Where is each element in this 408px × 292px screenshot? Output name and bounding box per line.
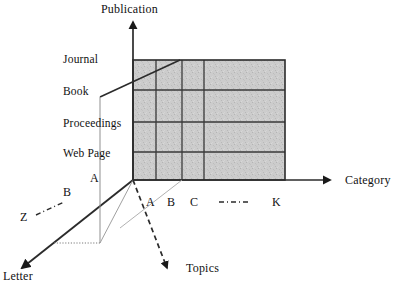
publication-tick-journal: Journal bbox=[63, 54, 98, 66]
letter-tick-z: Z bbox=[20, 211, 28, 223]
topics-axis-label: Topics bbox=[186, 262, 219, 274]
category-tick-b: B bbox=[167, 196, 175, 208]
diagram-canvas bbox=[0, 0, 408, 292]
publication-tick-book: Book bbox=[63, 86, 89, 98]
publication-tick-proceedings: Proceedings bbox=[63, 118, 121, 130]
category-tick-c: C bbox=[190, 196, 198, 208]
category-axis-label: Category bbox=[345, 174, 391, 186]
topics-axis-line bbox=[133, 180, 167, 268]
letter-axis-label: Letter bbox=[3, 270, 33, 282]
category-tick-k: K bbox=[272, 196, 281, 208]
letter-axis-line bbox=[22, 180, 133, 268]
publication-axis-label: Publication bbox=[101, 3, 158, 15]
letter-tick-b: B bbox=[63, 186, 71, 198]
letter-tick-a: A bbox=[90, 172, 99, 184]
cube-bottom-diagonal-edge bbox=[100, 180, 133, 243]
publication-tick-webpage: Web Page bbox=[63, 148, 111, 160]
category-tick-a: A bbox=[146, 196, 155, 208]
data-cube-diagram: Publication Category Topics Letter Journ… bbox=[0, 0, 408, 292]
letter-axis-ellipsis bbox=[36, 202, 64, 215]
